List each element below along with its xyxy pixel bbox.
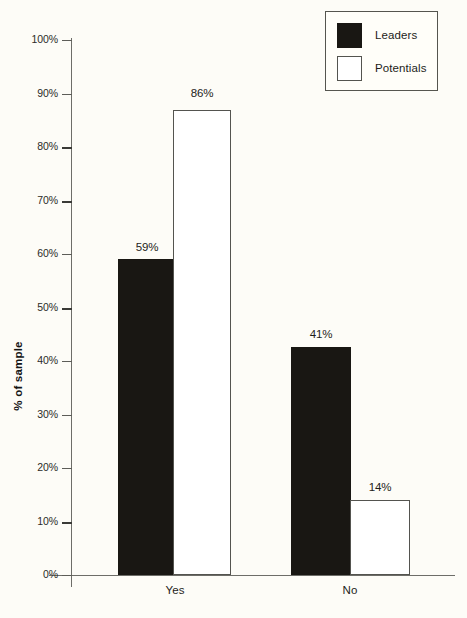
bar-no-potentials[interactable] [350,500,410,575]
y-tick-label-30: 30% [14,408,58,420]
x-axis-category-yes: Yes [140,584,210,596]
legend-swatch-potentials-icon [337,56,362,81]
x-axis-line [49,575,455,576]
y-tick-label-0: 0% [14,568,58,580]
y-tick-label-50: 50% [14,301,58,313]
chart-legend: Leaders Potentials [325,11,438,91]
bar-value-yes-leaders: 59% [112,241,182,253]
y-tick-label-60: 60% [14,247,58,259]
bar-chart: % of sample 100% 90% 80% 70% 60% 50% 40%… [0,0,467,618]
y-tick-mark-60 [62,254,72,255]
y-tick-mark-0 [62,575,72,576]
y-tick-mark-100 [62,40,72,41]
y-tick-mark-10 [62,522,72,524]
legend-item-potentials[interactable]: Potentials [337,55,427,81]
legend-label-leaders: Leaders [375,29,417,41]
bar-value-yes-potentials: 86% [167,87,237,99]
y-tick-mark-70 [62,201,72,203]
bar-value-no-potentials: 14% [345,481,415,493]
y-tick-mark-50 [62,308,72,310]
bar-no-leaders[interactable] [291,347,351,575]
y-tick-mark-30 [62,415,72,416]
y-tick-mark-20 [62,468,72,469]
y-tick-mark-80 [62,147,72,149]
legend-swatch-leaders-icon [337,23,362,48]
y-tick-mark-40 [62,361,72,362]
x-axis-category-no: No [315,584,385,596]
y-tick-label-70: 70% [14,194,58,206]
y-tick-label-20: 20% [14,461,58,473]
bar-yes-potentials[interactable] [173,110,231,575]
y-tick-label-80: 80% [14,140,58,152]
legend-label-potentials: Potentials [375,62,427,74]
y-tick-label-90: 90% [14,87,58,99]
y-tick-label-40: 40% [14,354,58,366]
bar-value-no-leaders: 41% [286,328,356,340]
clipped-caption [38,612,418,618]
y-tick-label-10: 10% [14,515,58,527]
y-axis-line [71,38,72,587]
legend-item-leaders[interactable]: Leaders [337,22,417,48]
bar-yes-leaders[interactable] [118,259,175,575]
y-tick-label-100: 100% [14,33,58,45]
y-axis-title: % of sample [12,333,24,419]
y-tick-mark-90 [62,94,72,95]
